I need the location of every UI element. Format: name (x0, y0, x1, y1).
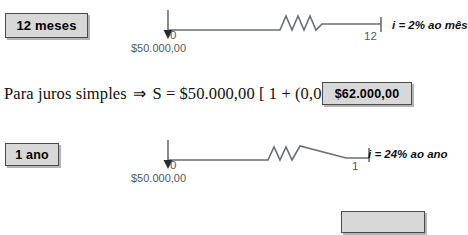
timeline-2-start-label: 0 (170, 159, 176, 171)
timeline-axis-path (168, 146, 369, 160)
timeline-1-start-label: 0 (170, 29, 176, 41)
timeline-12-meses (150, 6, 396, 54)
timeline-axis-path (168, 16, 381, 30)
formula-result-box: $62.000,00 (322, 82, 412, 105)
implies-arrow-icon: ⇒ (131, 85, 148, 102)
timeline-1-end-label: 12 (364, 30, 377, 42)
timeline-1-principal-label: $50.000,00 (131, 42, 186, 54)
formula-lead: Para juros simples (4, 84, 127, 103)
tag-12-meses: 12 meses (5, 13, 88, 38)
timeline-1-ano (150, 136, 396, 184)
interest-rate-monthly: i = 2% ao mês (392, 19, 468, 31)
timeline-2-principal-label: $50.000,00 (131, 172, 186, 184)
timeline-2-end-label: 1 (352, 160, 358, 172)
bottom-clipped-result-box (341, 211, 425, 233)
interest-rate-annual: i = 24% ao ano (368, 148, 448, 160)
tag-1-ano: 1 ano (5, 143, 59, 166)
